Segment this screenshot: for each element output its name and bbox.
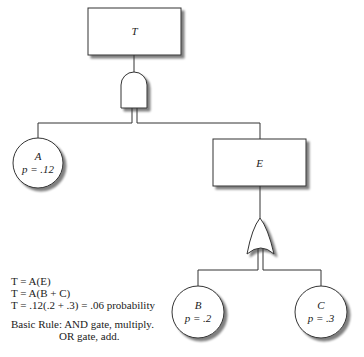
basic-event-c-probability: p = .3 [295, 312, 347, 325]
basic-event-a-name: A [13, 150, 63, 163]
basic-rule-line2: OR gate, add. [59, 330, 119, 343]
basic-rule-line1: Basic Rule: AND gate, multiply. [11, 318, 154, 331]
basic-event-c-name: C [295, 299, 347, 312]
basic-event-c-label: C p = .3 [295, 299, 347, 325]
intermediate-event-label: E [213, 157, 306, 170]
and-gate-icon [121, 72, 147, 108]
basic-event-b-label: B p = .2 [172, 299, 224, 325]
equation-3: T = .12(.2 + .3) = .06 probability [11, 299, 155, 312]
equation-1: T = A(E) [11, 275, 51, 288]
basic-event-b-probability: p = .2 [172, 312, 224, 325]
basic-event-b-name: B [172, 299, 224, 312]
equation-2: T = A(B + C) [11, 287, 70, 300]
or-gate-icon [247, 218, 274, 254]
basic-event-a-label: A p = .12 [13, 150, 63, 176]
top-event-label: T [88, 25, 181, 38]
basic-event-a-probability: p = .12 [13, 163, 63, 176]
